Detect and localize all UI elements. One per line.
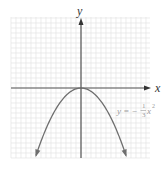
equation-denominator: 3 <box>142 111 146 119</box>
y-axis-arrow-icon <box>79 18 84 25</box>
x-axis-arrow-icon <box>144 86 151 91</box>
parabola-graph: x y y = − 1 3 x 2 <box>0 0 168 172</box>
x-axis-label: x <box>154 81 161 95</box>
equation-label: y = − 1 3 x 2 <box>116 102 155 119</box>
equation-numerator: 1 <box>142 102 146 110</box>
equation-variable: x <box>146 106 151 116</box>
y-axis-label: y <box>76 4 83 18</box>
equation-exponent: 2 <box>152 103 155 109</box>
equation-lhs: y = − <box>116 106 138 116</box>
